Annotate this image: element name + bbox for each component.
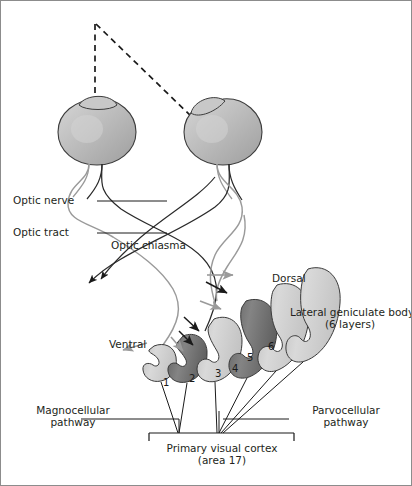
lgn-layer-number-4: 4 (232, 363, 238, 374)
lgb-label-line2: (6 layers) (290, 318, 410, 330)
cortex-label-line1: Primary visual cortex (141, 442, 303, 454)
primary-visual-cortex-label: Primary visual cortex (area 17) (141, 442, 303, 467)
lgn-layer-number-1: 1 (163, 377, 169, 388)
dorsal-label: Dorsal (272, 272, 306, 284)
cortex-label-line2: (area 17) (141, 454, 303, 466)
lgb-label-line1: Lateral geniculate body (290, 306, 410, 318)
lgn-layer-number-6: 6 (268, 341, 274, 352)
optic-chiasma-label: Optic chiasma (111, 239, 186, 251)
lgn-layer-number-2: 2 (189, 373, 195, 384)
parvocellular-pathway-label: Parvocellular pathway (286, 404, 406, 429)
optic-nerve-label: Optic nerve (13, 194, 74, 206)
magnocellular-label-line1: Magnocellular (11, 404, 135, 416)
magnocellular-pathway-label: Magnocellular pathway (11, 404, 135, 429)
magnocellular-label-line2: pathway (11, 416, 135, 428)
lgn-layer-number-5: 5 (247, 352, 253, 363)
label-leader-lines (97, 201, 167, 350)
optic-tract-label: Optic tract (13, 226, 69, 238)
ventral-label: Ventral (109, 338, 146, 350)
parvocellular-label-line1: Parvocellular (286, 404, 406, 416)
left-eye (58, 96, 136, 199)
lgn-layer-number-3: 3 (215, 368, 221, 379)
parvocellular-label-line2: pathway (286, 416, 406, 428)
lateral-geniculate-body-label: Lateral geniculate body (6 layers) (290, 306, 410, 331)
figure-frame: Optic nerve Optic tract Optic chiasma Do… (0, 0, 412, 486)
right-eye (184, 98, 262, 200)
